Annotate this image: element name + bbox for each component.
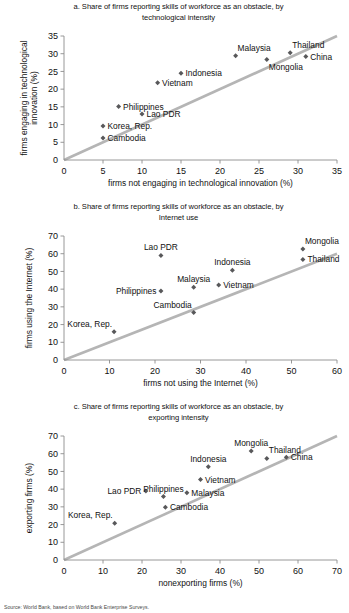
y-tick-label: 20 [48, 320, 58, 330]
y-tick-label: 60 [48, 449, 58, 459]
data-point-marker [116, 104, 121, 109]
data-point-label: Vietnam [162, 78, 193, 88]
data-point-label: Indonesia [190, 454, 227, 464]
data-point-label: Philippines [143, 484, 184, 494]
data-point-label: Philippines [116, 286, 157, 296]
y-tick-label: 20 [48, 520, 58, 530]
x-axis-label: firms not engaging in technological inno… [108, 178, 293, 188]
data-point-marker [101, 123, 106, 128]
data-point-marker [158, 253, 163, 258]
data-point-marker [230, 268, 235, 273]
data-point-label: Korea, Rep. [67, 319, 112, 329]
x-tick-label: 5 [100, 166, 105, 176]
x-tick-label: 40 [241, 366, 251, 376]
data-point-label: Thailand [292, 40, 324, 50]
y-tick-label: 30 [48, 302, 58, 312]
data-point-label: Mongolia [234, 438, 268, 448]
data-point-marker [163, 505, 168, 510]
panel-a-plot: 0510152025303505101520253035firms not en… [0, 0, 349, 200]
y-tick-label: 10 [48, 537, 58, 547]
x-tick-label: 10 [137, 166, 147, 176]
x-tick-label: 60 [293, 566, 303, 576]
x-axis-label: nonexporting firms (%) [158, 578, 242, 588]
data-point-marker [300, 247, 305, 252]
y-tick-label: 50 [48, 467, 58, 477]
y-tick-label: 40 [48, 284, 58, 294]
data-point-label: Vietnam [223, 280, 254, 290]
data-point-label: China [291, 452, 313, 462]
data-point-marker [233, 53, 238, 58]
x-tick-label: 50 [254, 566, 264, 576]
data-point-marker [140, 111, 145, 116]
x-tick-label: 40 [215, 566, 225, 576]
y-tick-label: 10 [48, 120, 58, 130]
data-point-label: Lao PDR [147, 109, 181, 119]
y-axis-label: exporting firms (%) [24, 463, 34, 533]
y-tick-label: 30 [48, 49, 58, 59]
y-axis-label: innovation (%) [29, 71, 39, 125]
data-point-label: Mongolia [269, 62, 303, 72]
data-point-label: Malaysia [238, 43, 271, 53]
data-point-label: Malaysia [177, 274, 210, 284]
data-point-marker [300, 257, 305, 262]
y-tick-label: 25 [48, 67, 58, 77]
panel-b-plot: 0102030405060700102030405060firms not us… [0, 200, 349, 400]
data-point-marker [206, 464, 211, 469]
data-point-marker [158, 288, 163, 293]
x-tick-label: 15 [176, 166, 186, 176]
y-tick-label: 0 [53, 355, 58, 365]
data-point-label: Cambodia [170, 502, 209, 512]
y-tick-label: 15 [48, 102, 58, 112]
data-point-marker [198, 477, 203, 482]
x-tick-label: 50 [286, 366, 296, 376]
x-tick-label: 10 [98, 566, 108, 576]
data-point-marker [155, 80, 160, 85]
data-point-label: Korea, Rep. [108, 121, 153, 131]
data-point-label: China [310, 52, 332, 62]
data-point-marker [101, 136, 106, 141]
data-point-label: Indonesia [186, 68, 223, 78]
y-axis-label: firms using the Internet (%) [24, 248, 34, 349]
data-point-label: Indonesia [214, 257, 251, 267]
chart-panel-b: b. Share of firms reporting skills of wo… [0, 200, 349, 400]
y-tick-label: 10 [48, 337, 58, 347]
data-point-label: Vietnam [205, 475, 236, 485]
data-point-label: Lao PDR [144, 242, 178, 252]
panel-c-plot: 010203040506070010203040506070nonexporti… [0, 400, 349, 600]
y-tick-label: 40 [48, 484, 58, 494]
x-tick-label: 0 [61, 366, 66, 376]
data-point-label: Cambodia [153, 300, 192, 310]
data-point-marker [184, 490, 189, 495]
data-point-label: Cambodia [108, 133, 147, 143]
x-tick-label: 20 [150, 366, 160, 376]
x-tick-label: 30 [195, 366, 205, 376]
x-tick-label: 0 [61, 566, 66, 576]
data-point-marker [249, 449, 254, 454]
data-point-marker [161, 494, 166, 499]
data-point-marker [264, 57, 269, 62]
y-tick-label: 70 [48, 231, 58, 241]
y-tick-label: 60 [48, 249, 58, 259]
data-point-label: Malaysia [191, 488, 224, 498]
y-axis-label: firms engaging in technological [19, 40, 29, 155]
data-point-label: Thailand [307, 254, 339, 264]
x-tick-label: 20 [137, 566, 147, 576]
x-tick-label: 60 [332, 366, 342, 376]
data-point-label: Lao PDR [107, 486, 141, 496]
y-tick-label: 30 [48, 502, 58, 512]
data-point-marker [112, 329, 117, 334]
chart-panel-c: c. Share of firms reporting skills of wo… [0, 400, 349, 600]
x-tick-label: 35 [332, 166, 342, 176]
data-point-marker [179, 71, 184, 76]
x-tick-label: 20 [215, 166, 225, 176]
data-point-marker [303, 54, 308, 59]
y-tick-label: 5 [53, 137, 58, 147]
data-point-marker [112, 521, 117, 526]
data-point-marker [191, 285, 196, 290]
source-note: Source: World Bank, based on World Bank … [4, 604, 344, 610]
x-tick-label: 30 [293, 166, 303, 176]
y-tick-label: 70 [48, 431, 58, 441]
x-tick-label: 10 [104, 366, 114, 376]
y-tick-label: 0 [53, 155, 58, 165]
x-tick-label: 30 [176, 566, 186, 576]
